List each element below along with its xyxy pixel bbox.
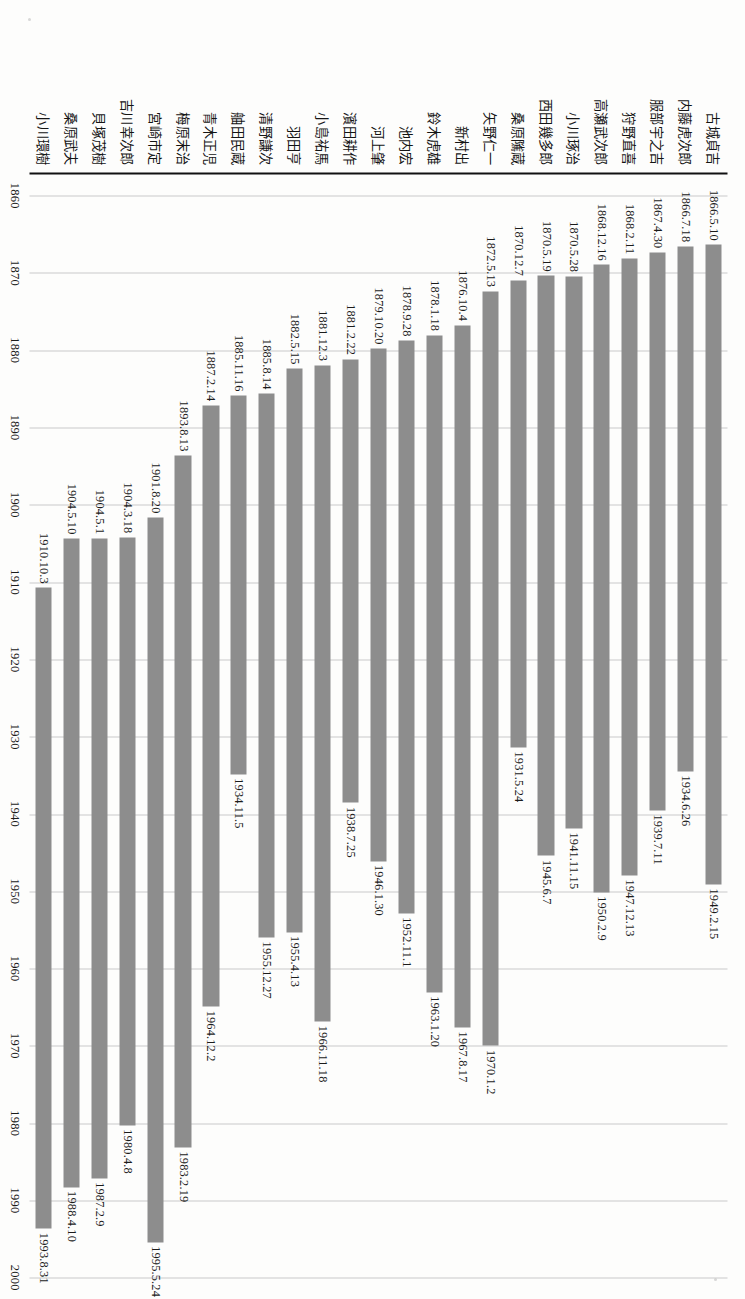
category-label: 貝塚茂樹 — [89, 112, 108, 165]
category-label: 小島祐馬 — [313, 112, 332, 165]
timeline-bar — [91, 538, 107, 1178]
bar-start-label: 1870.5.28 — [566, 221, 581, 272]
category-label: 新村出 — [452, 125, 471, 165]
axis-tick-label: 1930 — [6, 723, 21, 749]
bar-end-label: 1949.2.15 — [706, 888, 721, 939]
bar-end-label: 1946.1.30 — [371, 865, 386, 916]
timeline-bar — [565, 276, 581, 828]
category-label: 西田幾多郎 — [536, 99, 555, 166]
axis-tick-label: 1880 — [6, 337, 21, 363]
category-label: 青木正児 — [201, 112, 220, 165]
category-label: 宮崎市定 — [145, 112, 164, 165]
bar-start-label: 1870.5.19 — [538, 220, 553, 271]
bar-end-label: 1995.5.24 — [147, 1246, 162, 1297]
bar-end-label: 1983.2.19 — [175, 1151, 190, 1202]
bar-start-label: 1910.10.3 — [35, 533, 50, 584]
chart-row: 小川琢治1870.5.281941.11.15 — [565, 0, 581, 1299]
plot-area: 1860187018801890190019101920193019401950… — [0, 0, 745, 1299]
category-label: 桑原隲蔵 — [508, 112, 527, 165]
timeline-bar — [398, 340, 414, 913]
category-label: 高瀬武次郎 — [592, 99, 611, 166]
bar-start-label: 1876.10.4 — [454, 270, 469, 321]
bar-end-label: 1970.1.2 — [482, 1049, 497, 1094]
category-label: 狩野直喜 — [620, 112, 639, 165]
chart-row: 狩野直喜1868.2.111947.12.13 — [621, 0, 637, 1299]
chart-row: 宮崎市定1901.8.201995.5.24 — [147, 0, 163, 1299]
bar-start-label: 1901.8.20 — [147, 462, 162, 513]
chart-row: 青木正児1887.2.141964.12.2 — [202, 0, 218, 1299]
chart-row: 吉川幸次郎1904.3.181980.4.8 — [119, 0, 135, 1299]
bar-end-label: 1988.4.10 — [63, 1191, 78, 1242]
axis-tick-label: 1980 — [6, 1110, 21, 1136]
bar-start-label: 1881.2.22 — [343, 304, 358, 355]
axis-tick-label: 1950 — [6, 878, 21, 904]
bar-start-label: 1868.2.11 — [622, 203, 637, 253]
category-label: 羽田亨 — [285, 125, 304, 165]
chart-row: 梅原末治1893.8.131983.2.19 — [174, 0, 190, 1299]
axis-tick-label: 1920 — [6, 646, 21, 672]
timeline-bar — [286, 368, 302, 932]
bar-end-label: 1938.7.25 — [343, 806, 358, 857]
axis-tick-label: 1940 — [6, 801, 21, 827]
timeline-bar — [454, 325, 470, 1027]
bar-end-label: 1945.6.7 — [538, 859, 553, 904]
bar-end-label: 1931.5.24 — [510, 751, 525, 802]
category-label: 古城貞吉 — [704, 112, 723, 165]
chart-row: 清野謙次1885.8.141955.12.27 — [258, 0, 274, 1299]
chart-row: 矢野仁一1872.5.131970.1.2 — [482, 0, 498, 1299]
chart-row: 桑原隲蔵1870.12.71931.5.24 — [510, 0, 526, 1299]
chart-row: 河上肇1879.10.201946.1.30 — [370, 0, 386, 1299]
category-label: 小川環樹 — [33, 112, 52, 165]
bar-start-label: 1885.8.14 — [259, 338, 274, 389]
bar-start-label: 1868.12.16 — [594, 203, 609, 260]
bar-end-label: 1947.12.13 — [622, 879, 637, 936]
bar-start-label: 1866.5.10 — [706, 189, 721, 240]
chart-row: 小川環樹1910.10.31993.8.31 — [35, 0, 51, 1299]
axis-tick-label: 1890 — [6, 414, 21, 440]
axis-tick-label: 1990 — [6, 1187, 21, 1213]
timeline-bar — [621, 258, 637, 875]
bar-end-label: 1955.4.13 — [287, 936, 302, 987]
bar-start-label: 1878.9.28 — [398, 285, 413, 336]
chart-row: 服部宇之吉1867.4.301939.7.11 — [649, 0, 665, 1299]
chart-row: 桑原武夫1904.5.101988.4.10 — [63, 0, 79, 1299]
timeline-bar — [705, 244, 721, 884]
chart-row: 池内宏1878.9.281952.11.1 — [398, 0, 414, 1299]
bar-end-label: 1963.1.20 — [426, 996, 441, 1047]
chart-row: 新村出1876.10.41967.8.17 — [454, 0, 470, 1299]
bar-start-label: 1866.7.18 — [678, 191, 693, 242]
bar-start-label: 1882.5.15 — [287, 313, 302, 364]
timeline-bar — [426, 335, 442, 992]
bar-start-label: 1881.12.3 — [315, 310, 330, 361]
bar-end-label: 1993.8.31 — [35, 1232, 50, 1283]
category-label: 池内宏 — [396, 125, 415, 165]
category-label: 桑原武夫 — [61, 112, 80, 165]
bar-end-label: 1934.11.5 — [231, 778, 246, 828]
bar-start-label: 1870.12.7 — [510, 225, 525, 276]
timeline-bar — [202, 405, 218, 1006]
bar-end-label: 1934.6.26 — [678, 775, 693, 826]
category-label: 梅原末治 — [173, 112, 192, 165]
category-label: 舳田民蔵 — [229, 112, 248, 165]
bar-end-label: 1941.11.15 — [566, 832, 581, 889]
bar-end-label: 1964.12.2 — [203, 1010, 218, 1061]
bar-start-label: 1879.10.20 — [371, 287, 386, 344]
timeline-bar — [537, 275, 553, 855]
chart-row: 小島祐馬1881.12.31966.11.18 — [314, 0, 330, 1299]
bar-end-label: 1950.2.9 — [594, 896, 609, 941]
chart-page: 1860187018801890190019101920193019401950… — [0, 0, 745, 1299]
timeline-bar — [649, 252, 665, 810]
axis-tick-label: 1960 — [6, 955, 21, 981]
bar-end-label: 1980.4.8 — [119, 1129, 134, 1174]
bar-start-label: 1885.11.16 — [231, 334, 246, 391]
category-label: 清野謙次 — [257, 112, 276, 165]
timeline-bar — [35, 587, 51, 1228]
chart-row: 濱田耕作1881.2.221938.7.25 — [342, 0, 358, 1299]
bar-end-label: 1952.11.1 — [398, 917, 413, 967]
timeline-bar — [258, 393, 274, 937]
timeline-bar — [63, 538, 79, 1187]
bar-start-label: 1904.3.18 — [119, 482, 134, 533]
timeline-bar — [314, 365, 330, 1022]
category-label: 服部宇之吉 — [648, 99, 667, 166]
timeline-bar — [510, 280, 526, 747]
